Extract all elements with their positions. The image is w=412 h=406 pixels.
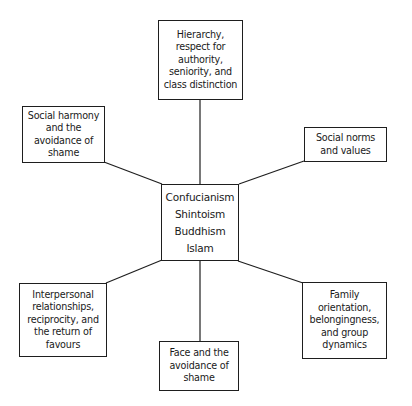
node-text-line: and the bbox=[46, 122, 81, 134]
node-text-line: Interpersonal bbox=[32, 289, 93, 301]
node-text-line: Family bbox=[330, 289, 360, 301]
node-text-line: belongingness, bbox=[310, 314, 380, 326]
node-text-line: orientation, bbox=[318, 302, 371, 314]
node-text-line: seniority, and bbox=[169, 66, 232, 78]
node-text-line: shame bbox=[183, 372, 214, 384]
node-text-line: avoidance of bbox=[169, 360, 228, 372]
node-text-line: Social norms bbox=[316, 132, 375, 144]
node-text-line: authority, bbox=[178, 54, 223, 66]
religion-label: Confucianism bbox=[166, 189, 235, 206]
node-text-line: favours bbox=[46, 339, 80, 351]
node-family-orientation: Family orientation, belongingness, and g… bbox=[302, 282, 387, 359]
religion-label: Buddhism bbox=[175, 223, 226, 240]
node-face-avoidance-of-shame: Face and the avoidance of shame bbox=[159, 341, 239, 391]
node-text-line: class distinction bbox=[164, 79, 237, 91]
connector-lower-left bbox=[106, 260, 162, 283]
connector-upper-left bbox=[104, 162, 162, 184]
node-text-line: Hierarchy, bbox=[177, 29, 224, 41]
node-text-line: Face and the bbox=[169, 347, 228, 359]
religion-label: Islam bbox=[186, 240, 213, 257]
node-hierarchy: Hierarchy, respect for authority, senior… bbox=[158, 20, 243, 100]
node-social-norms: Social norms and values bbox=[304, 127, 387, 162]
node-text-line: reciprocity, and bbox=[27, 314, 99, 326]
node-text-line: Social harmony bbox=[28, 110, 99, 122]
node-text-line: and group bbox=[321, 327, 368, 339]
religion-label: Shintoism bbox=[175, 206, 225, 223]
node-text-line: and values bbox=[320, 145, 370, 157]
node-text-line: the return of bbox=[34, 326, 92, 338]
node-interpersonal-relationships: Interpersonal relationships, reciprocity… bbox=[19, 283, 107, 357]
node-religions-center: Confucianism Shintoism Buddhism Islam bbox=[161, 184, 239, 261]
connector-lower-right bbox=[238, 261, 303, 283]
node-text-line: shame bbox=[48, 147, 79, 159]
node-text-line: dynamics bbox=[322, 339, 366, 351]
node-text-line: respect for bbox=[176, 41, 226, 53]
node-social-harmony: Social harmony and the avoidance of sham… bbox=[22, 106, 105, 163]
node-text-line: avoidance of bbox=[34, 135, 93, 147]
node-text-line: relationships, bbox=[32, 301, 94, 313]
connector-upper-right bbox=[239, 161, 304, 184]
